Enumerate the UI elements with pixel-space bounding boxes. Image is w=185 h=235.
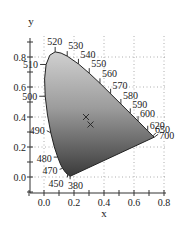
wavelength-label-470: 470 bbox=[43, 165, 58, 176]
x-axis-title: x bbox=[101, 207, 107, 219]
x-tick-label: 0.0 bbox=[38, 197, 51, 208]
x-tick-label: 0.6 bbox=[128, 197, 141, 208]
locus-area bbox=[45, 52, 155, 176]
y-tick-label: 0.0 bbox=[14, 172, 27, 183]
chromaticity-chart: 5205305405505605705805906006206507005105… bbox=[0, 0, 185, 235]
wavelength-label-700: 700 bbox=[159, 130, 174, 141]
y-axis-title: y bbox=[28, 15, 34, 27]
wavelength-label-450: 450 bbox=[48, 178, 63, 189]
y-tick-label: 0.2 bbox=[14, 142, 27, 153]
wavelength-label-520: 520 bbox=[47, 36, 62, 47]
wavelength-label-490: 490 bbox=[30, 125, 45, 136]
spectral-locus bbox=[45, 52, 155, 176]
y-tick-label: 0.6 bbox=[14, 82, 27, 93]
wavelength-label-480: 480 bbox=[37, 153, 52, 164]
y-tick-label: 0.4 bbox=[14, 112, 27, 123]
wavelength-tick bbox=[60, 168, 63, 169]
x-tick-label: 0.2 bbox=[68, 197, 81, 208]
wavelength-label-380: 380 bbox=[68, 180, 83, 191]
y-tick-label: 0.8 bbox=[14, 52, 27, 63]
wavelength-label-600: 600 bbox=[140, 108, 155, 119]
wavelength-label-560: 560 bbox=[102, 68, 117, 79]
x-tick-label: 0.8 bbox=[158, 197, 171, 208]
